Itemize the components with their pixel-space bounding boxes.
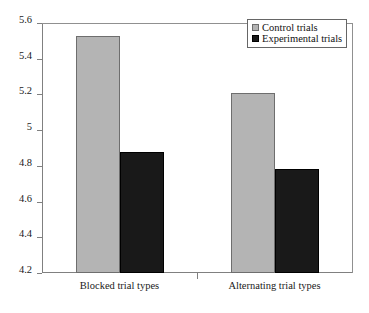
y-axis-tick-label: 5.2	[19, 86, 32, 97]
y-axis-tick-label: 4.6	[19, 194, 32, 205]
plot-right-border	[352, 23, 353, 273]
y-axis-tick-label: 5.4	[19, 51, 32, 62]
control-swatch-icon	[252, 24, 259, 31]
bar-experimental	[275, 169, 319, 273]
x-axis-category-label: Blocked trial types	[42, 281, 197, 292]
y-axis-tick-mark	[37, 273, 42, 274]
chart-legend: Control trials Experimental trials	[247, 19, 347, 48]
legend-label-control: Control trials	[262, 22, 318, 33]
x-axis-tick-mark	[197, 273, 198, 279]
y-axis-tick-label: 5	[27, 122, 32, 133]
y-axis-tick-mark	[37, 59, 42, 60]
bar-control	[76, 36, 120, 274]
y-axis-tick-mark	[37, 23, 42, 24]
y-axis-tick-label: 4.2	[19, 265, 32, 276]
x-axis-category-label: Alternating trial types	[197, 281, 352, 292]
y-axis-tick-mark	[37, 202, 42, 203]
experimental-swatch-icon	[252, 35, 259, 42]
y-axis-tick-mark	[37, 237, 42, 238]
y-axis-tick-mark	[37, 94, 42, 95]
legend-label-experimental: Experimental trials	[262, 33, 342, 44]
y-axis-tick-mark	[37, 166, 42, 167]
y-axis-tick-label: 5.6	[19, 15, 32, 26]
legend-item-experimental: Experimental trials	[252, 33, 342, 44]
bar-control	[231, 93, 275, 273]
y-axis-tick-mark	[37, 130, 42, 131]
bar-experimental	[120, 152, 164, 273]
bar-chart-figure: 4.24.44.64.855.25.45.6 Blocked trial typ…	[0, 0, 369, 313]
y-axis-tick-label: 4.4	[19, 229, 32, 240]
legend-item-control: Control trials	[252, 22, 342, 33]
y-axis-tick-label: 4.8	[19, 158, 32, 169]
